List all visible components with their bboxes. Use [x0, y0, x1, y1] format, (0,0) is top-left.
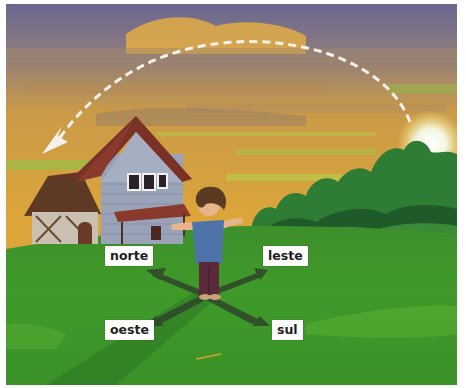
label-east: leste: [263, 246, 308, 266]
label-west: oeste: [105, 320, 154, 340]
scene-artwork: [6, 4, 457, 385]
label-south: sul: [272, 320, 303, 340]
compass-illustration: norte leste oeste sul: [6, 4, 457, 385]
label-north: norte: [105, 246, 153, 266]
